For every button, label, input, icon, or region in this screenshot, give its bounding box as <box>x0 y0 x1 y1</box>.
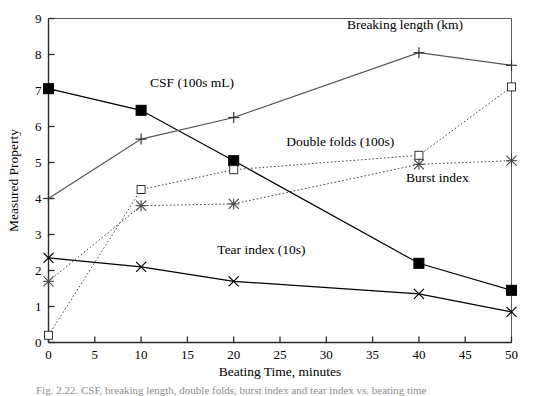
x-tick-label: 25 <box>274 347 287 362</box>
y-tick-label: 2 <box>35 263 42 278</box>
series-line <box>49 89 512 291</box>
figure-caption: Fig. 2.22. CSF, breaking length, double … <box>36 384 426 396</box>
y-tick-label: 6 <box>35 119 42 134</box>
marker-open-square <box>137 186 145 194</box>
marker-open-square <box>230 166 238 174</box>
x-tick-label: 0 <box>45 347 52 362</box>
marker-open-square <box>508 83 516 91</box>
x-tick-label: 20 <box>227 347 240 362</box>
series-3: Burst index <box>43 155 517 287</box>
marker-open-square <box>45 331 53 339</box>
x-tick-label: 35 <box>366 347 379 362</box>
y-tick-label: 0 <box>35 335 42 350</box>
y-axis-title: Measured Property <box>6 129 21 232</box>
y-tick-label: 8 <box>35 47 42 62</box>
series-label: CSF (100s mL) <box>150 75 234 90</box>
series-label: Breaking length (km) <box>347 17 463 32</box>
series-label: Tear index (10s) <box>217 242 305 257</box>
series-label: Burst index <box>406 170 469 185</box>
x-tick-label: 45 <box>459 347 472 362</box>
y-tick-label: 9 <box>35 11 42 26</box>
marker-filled-square <box>507 285 517 295</box>
series-4: Tear index (10s) <box>44 242 517 317</box>
y-tick-label: 3 <box>35 227 42 242</box>
series-line <box>49 258 512 312</box>
y-tick-label: 1 <box>35 299 42 314</box>
marker-filled-square <box>136 105 146 115</box>
y-axis: 0123456789 <box>35 11 55 350</box>
x-tick-label: 50 <box>505 347 518 362</box>
marker-open-square <box>415 151 423 159</box>
x-tick-label: 15 <box>181 347 194 362</box>
x-tick-label: 5 <box>92 347 99 362</box>
marker-filled-square <box>44 84 54 94</box>
y-tick-label: 4 <box>35 191 42 206</box>
x-axis-title: Beating Time, minutes <box>219 364 342 379</box>
marker-filled-square <box>414 258 424 268</box>
y-tick-label: 5 <box>35 155 42 170</box>
series-label: Double folds (100s) <box>286 134 394 149</box>
x-axis: 05101520253035404550 <box>45 337 518 362</box>
x-tick-label: 30 <box>320 347 333 362</box>
series-2: Double folds (100s) <box>45 83 516 339</box>
x-tick-label: 10 <box>135 347 148 362</box>
y-tick-label: 7 <box>35 83 42 98</box>
marker-filled-square <box>229 156 239 166</box>
x-tick-label: 40 <box>412 347 425 362</box>
